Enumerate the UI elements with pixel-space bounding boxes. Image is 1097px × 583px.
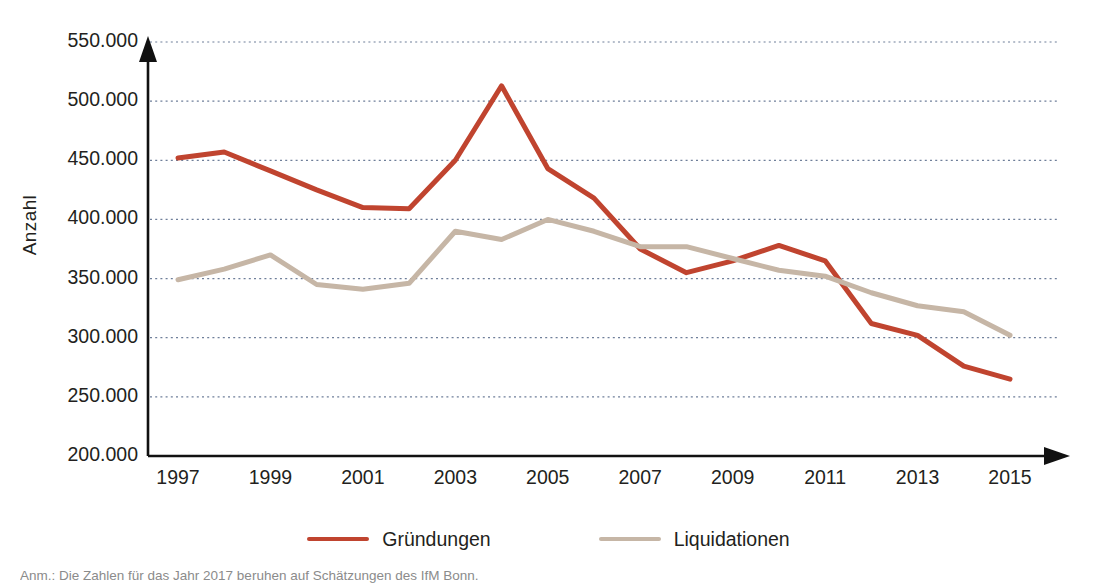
x-tick-label: 2007 xyxy=(595,466,685,489)
y-tick-label: 300.000 xyxy=(38,325,138,348)
figure: 550.000500.000450.000400.000350.000300.0… xyxy=(0,0,1097,583)
plot-area: 550.000500.000450.000400.000350.000300.0… xyxy=(0,0,1097,470)
x-axis-tick-labels: 1997199920012003200520072009201120132015 xyxy=(0,466,1097,500)
x-tick-label: 2001 xyxy=(318,466,408,489)
y-axis-tick-labels: 550.000500.000450.000400.000350.000300.0… xyxy=(28,0,138,470)
y-tick-label: 550.000 xyxy=(38,29,138,52)
x-tick-label: 2011 xyxy=(780,466,870,489)
y-tick-label: 250.000 xyxy=(38,384,138,407)
x-tick-label: 2005 xyxy=(503,466,593,489)
x-tick-label: 2015 xyxy=(965,466,1055,489)
y-tick-label: 350.000 xyxy=(38,266,138,289)
figure-caption: Anm.: Die Zahlen für das Jahr 2017 beruh… xyxy=(20,568,1080,583)
y-tick-label: 200.000 xyxy=(38,443,138,466)
x-axis-arrowhead xyxy=(1044,447,1070,465)
legend-item: Gründungen xyxy=(307,528,490,551)
series-line-liquidationen xyxy=(178,219,1010,335)
series-lines xyxy=(178,86,1010,379)
y-tick-label: 500.000 xyxy=(38,88,138,111)
x-tick-label: 2013 xyxy=(873,466,963,489)
line-chart-canvas xyxy=(0,0,1097,470)
legend-color-swatch xyxy=(599,537,661,541)
chart-legend: GründungenLiquidationen xyxy=(0,522,1097,556)
gridlines xyxy=(150,42,1058,456)
y-tick-label: 400.000 xyxy=(38,206,138,229)
y-axis-title: Anzahl xyxy=(19,165,41,285)
x-tick-label: 2009 xyxy=(688,466,778,489)
axis-lines xyxy=(139,36,1070,465)
y-tick-label: 450.000 xyxy=(38,147,138,170)
legend-label: Gründungen xyxy=(382,528,490,551)
legend-color-swatch xyxy=(307,537,369,541)
y-axis-arrowhead xyxy=(139,36,157,62)
x-tick-label: 1997 xyxy=(133,466,223,489)
x-tick-label: 2003 xyxy=(410,466,500,489)
x-tick-label: 1999 xyxy=(225,466,315,489)
legend-item: Liquidationen xyxy=(599,528,790,551)
legend-label: Liquidationen xyxy=(674,528,790,551)
